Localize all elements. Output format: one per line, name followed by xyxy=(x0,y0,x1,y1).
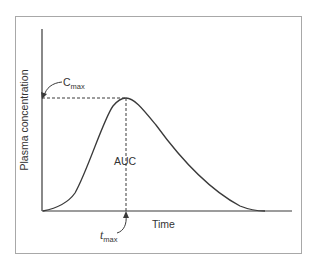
auc-label: AUC xyxy=(114,155,136,167)
tmax-label: tmax xyxy=(100,228,118,244)
x-axis-label: Time xyxy=(152,218,175,230)
cmax-subscript: max xyxy=(71,82,85,91)
concentration-curve xyxy=(43,98,265,211)
tmax-arrowhead-icon xyxy=(123,211,129,218)
cmax-label: Cmax xyxy=(63,76,85,91)
y-axis-label: Plasma concentration xyxy=(18,70,30,171)
cmax-symbol: C xyxy=(63,76,71,88)
tmax-subscript: max xyxy=(103,235,117,244)
